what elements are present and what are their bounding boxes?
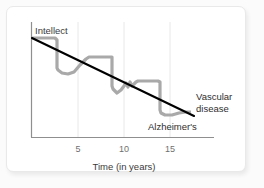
series-label-vascular-line2: disease [196,103,229,114]
y-axis-label-intellect: Intellect [35,25,68,36]
x-tick-label-5: 5 [75,144,80,154]
intellect-decline-chart: Intellect 5 10 15 Time (in years) Vascul… [0,0,264,188]
x-tick-label-10: 10 [119,144,129,154]
x-tick-label-15: 15 [165,144,175,154]
x-axis-title: Time (in years) [93,161,156,172]
series-label-alzheimers: Alzheimer's [148,121,197,132]
series-label-vascular-line1: Vascular [196,91,232,102]
screenshot-root: Intellect 5 10 15 Time (in years) Vascul… [0,0,264,188]
